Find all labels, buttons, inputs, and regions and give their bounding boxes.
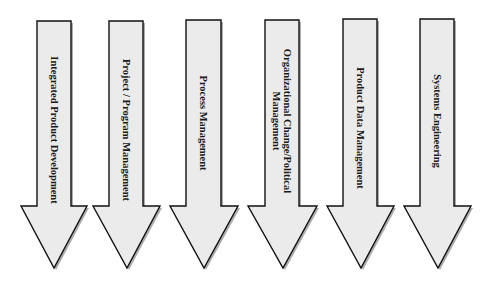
arrow-project-program-management: Project / Program Management <box>93 21 162 270</box>
arrow-integrated-product-development: Integrated Product Development <box>21 21 89 270</box>
arrow-label: Product Data Management <box>355 67 366 189</box>
arrow-systems-engineering: Systems Engineering <box>404 19 473 270</box>
arrow-diagram: Integrated Product DevelopmentProject / … <box>0 0 487 284</box>
arrow-label: Integrated Product Development <box>49 56 60 204</box>
arrows-layer: Integrated Product DevelopmentProject / … <box>21 19 473 270</box>
arrow-label: Project / Program Management <box>121 59 132 202</box>
arrow-organizational-change-political-management: Organizational Change/PoliticalManagemen… <box>248 20 319 270</box>
arrow-label: Management <box>271 92 282 151</box>
arrow-process-management: Process Management <box>170 20 240 270</box>
arrow-product-data-management: Product Data Management <box>327 19 396 270</box>
arrow-label: Organizational Change/Political <box>282 49 293 193</box>
arrow-label: Systems Engineering <box>432 74 443 168</box>
arrow-label: Process Management <box>198 75 209 171</box>
